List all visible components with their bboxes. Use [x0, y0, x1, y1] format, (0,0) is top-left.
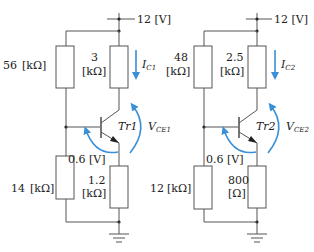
svg-text:[kΩ]: [kΩ]: [22, 59, 46, 72]
svg-text:[Ω]: [Ω]: [228, 187, 246, 200]
svg-text:[kΩ]: [kΩ]: [166, 65, 190, 78]
resistor-rc1: [110, 46, 128, 88]
circuit-1-labels: 12 [V] 56 [kΩ] 3 [kΩ] IC1 Tr1 VCE1 0.6 […: [3, 13, 171, 200]
svg-text:1.2: 1.2: [88, 174, 106, 187]
svg-text:3: 3: [91, 51, 98, 64]
svg-text:48: 48: [174, 51, 188, 64]
svg-text:VCE1: VCE1: [148, 120, 171, 134]
svg-text:2.5: 2.5: [226, 51, 244, 64]
resistor-r1-top: [56, 46, 74, 88]
svg-text:Tr2: Tr2: [256, 120, 276, 133]
resistor-re2: [248, 166, 266, 208]
svg-text:IC2: IC2: [280, 58, 296, 72]
svg-text:56: 56: [3, 59, 17, 72]
circuit-2-labels: 12 [V] 48 [kΩ] 2.5 [kΩ] IC2 Tr2 VCE2 0.6…: [150, 13, 309, 200]
svg-text:0.6 [V]: 0.6 [V]: [68, 153, 106, 166]
svg-text:[kΩ]: [kΩ]: [82, 187, 106, 200]
resistor-re1: [110, 166, 128, 208]
svg-text:[kΩ]: [kΩ]: [30, 182, 54, 195]
resistor-rc2: [248, 46, 266, 88]
svg-text:12 [V]: 12 [V]: [137, 13, 171, 26]
resistor-r2-bottom: [194, 166, 212, 209]
svg-text:[kΩ]: [kΩ]: [220, 65, 244, 78]
svg-text:800: 800: [228, 174, 249, 187]
svg-text:14: 14: [11, 182, 25, 195]
svg-text:12 [V]: 12 [V]: [274, 13, 308, 26]
svg-text:12: 12: [150, 182, 164, 195]
circuit-diagram: 12 [V] 56 [kΩ] 3 [kΩ] IC1 Tr1 VCE1 0.6 […: [0, 0, 314, 252]
svg-text:0.6 [V]: 0.6 [V]: [206, 153, 244, 166]
svg-text:Tr1: Tr1: [118, 120, 138, 133]
svg-text:[kΩ]: [kΩ]: [82, 65, 106, 78]
svg-text:[kΩ]: [kΩ]: [167, 182, 191, 195]
svg-text:VCE2: VCE2: [286, 120, 309, 134]
resistor-r1-top: [194, 46, 212, 88]
svg-text:IC1: IC1: [141, 58, 156, 72]
